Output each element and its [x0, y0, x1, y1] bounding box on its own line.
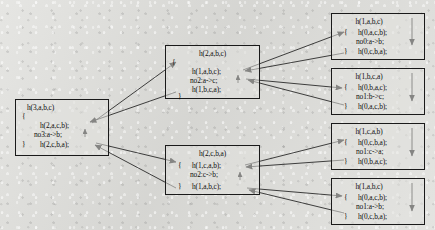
- node-leaf-2-close-brace: }: [344, 102, 347, 111]
- node-mid-bottom-close-brace: }: [178, 182, 181, 191]
- node-root-call-2: h(2,c,b,a);: [40, 140, 69, 149]
- node-leaf-3-move: no1:c->a;: [356, 147, 383, 156]
- node-leaf-1-open-brace: {: [344, 28, 347, 37]
- node-leaf-2-call-2: h(0,a,c,b);: [358, 102, 387, 111]
- node-mid-bottom-header: h(2,c,b,a): [165, 149, 260, 158]
- node-root-call-1: h(2,a,c,b);: [40, 121, 69, 130]
- node-leaf-2-move: no1:b->c;: [356, 92, 384, 101]
- node-mid-top-open-brace: {: [172, 58, 175, 67]
- node-root-move: no3:a->b;: [34, 130, 62, 139]
- node-leaf-1-call-1: h(0,a,c,b);: [358, 28, 387, 37]
- node-leaf-1-call-2: h(0,c,b,a);: [358, 47, 387, 56]
- node-mid-bottom-move: no2:c->b;: [190, 170, 218, 179]
- diagram-canvas: h(3,a,b,c) { h(2,a,c,b); no3:a->b; } h(2…: [0, 0, 435, 230]
- node-leaf-2-open-brace: {: [344, 83, 347, 92]
- node-leaf-4-close-brace: }: [344, 212, 347, 221]
- node-mid-top-call-2: h(1,b,c,a);: [192, 85, 221, 94]
- node-root-open-brace: {: [22, 112, 25, 121]
- node-leaf-3-call-2: h(0,b,a,c);: [358, 157, 387, 166]
- node-root-header: h(3,a,b,c): [27, 103, 54, 112]
- node-leaf-1-header: h(1,a,b,c): [331, 17, 407, 26]
- node-leaf-3-close-brace: }: [344, 157, 347, 166]
- node-leaf-2-header: h(1,b,c,a): [331, 72, 407, 81]
- node-leaf-4-open-brace: {: [344, 193, 347, 202]
- node-mid-top-header: h(2,a,b,c): [165, 49, 260, 58]
- node-mid-top-call-1: h(1,a,b,c);: [192, 67, 221, 76]
- node-mid-bottom-call-2: h(1,a,b,c);: [192, 182, 221, 191]
- node-leaf-4-move: no1:a->b;: [356, 202, 384, 211]
- node-leaf-4-call-2: h(0,c,b,a);: [358, 212, 387, 221]
- node-leaf-4-call-1: h(0,a,c,b);: [358, 193, 387, 202]
- node-leaf-1-close-brace: }: [344, 47, 347, 56]
- node-mid-top-move: no2:a->c;: [190, 76, 217, 85]
- node-mid-bottom-open-brace: {: [178, 161, 181, 170]
- node-mid-bottom-call-1: h(1,c,a,b);: [192, 161, 221, 170]
- node-leaf-3-open-brace: {: [344, 138, 347, 147]
- node-leaf-2-call-1: h(0,b,a,c);: [358, 83, 387, 92]
- edge-leaf-4-return: [249, 190, 344, 213]
- node-leaf-4-header: h(1,a,b,c): [331, 182, 407, 191]
- node-mid-top-close-brace: }: [178, 92, 181, 101]
- node-leaf-3-header: h(1,c,a,b): [331, 127, 407, 136]
- edge-mid-bottom-to-leaf-4: [247, 188, 342, 196]
- node-root-close-brace: }: [22, 140, 25, 149]
- node-leaf-3-call-1: h(0,c,b,a);: [358, 138, 387, 147]
- node-leaf-1-move: no0:a->b;: [356, 37, 384, 46]
